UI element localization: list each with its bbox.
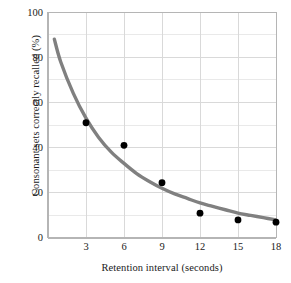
data-point bbox=[273, 219, 280, 226]
data-point bbox=[159, 179, 166, 186]
data-point bbox=[197, 210, 204, 217]
data-point-group bbox=[83, 119, 280, 225]
x-axis-title: Retention interval (seconds) bbox=[48, 262, 276, 273]
plot-area bbox=[0, 0, 291, 283]
data-point bbox=[235, 217, 242, 224]
data-point bbox=[83, 119, 90, 126]
data-point bbox=[121, 142, 128, 149]
chart-figure: Consonant sets correctly recalled (%) 10… bbox=[0, 0, 291, 283]
